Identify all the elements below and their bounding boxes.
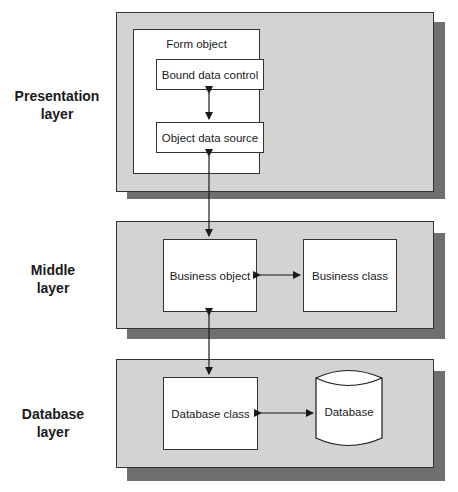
connectors-overlay [0,0,458,492]
database-cylinder-label: Database [316,406,382,418]
